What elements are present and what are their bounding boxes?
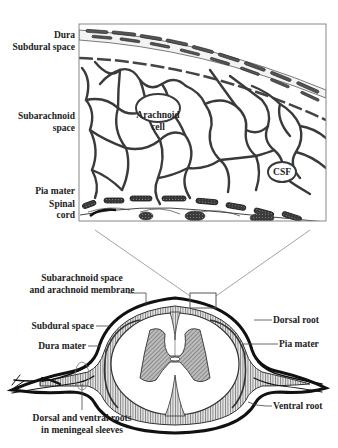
label-arachnoid-cell-line2: cell xyxy=(128,122,188,133)
label-spinal-cord-line2: cord xyxy=(0,210,75,221)
dura-layer xyxy=(79,29,326,101)
label-subdural-space-section: Subdural space xyxy=(0,321,94,332)
cross-section xyxy=(12,293,326,433)
label-subarachnoid-space-line2: space xyxy=(0,123,75,134)
label-spinal-cord-line1: Spinal xyxy=(0,199,75,210)
label-subdural-space: Subdural space xyxy=(0,42,75,53)
label-arachnoid-cell-line1: Arachnoid xyxy=(128,110,188,121)
label-pia-mater: Pia mater xyxy=(0,186,75,197)
label-dorsal-root: Dorsal root xyxy=(273,315,319,326)
label-subarachnoid-space-line1: Subarachnoid xyxy=(0,111,75,122)
label-meningeal-sleeves-line2: in meningeal sleeves xyxy=(22,425,142,436)
label-ventral-root: Ventral root xyxy=(273,401,322,412)
label-dura: Dura xyxy=(0,30,75,41)
label-subarachnoid-membrane-line1: Subarachnoid space xyxy=(22,273,142,284)
label-pia-mater-section: Pia mater xyxy=(279,339,319,350)
meninges-illustration xyxy=(0,0,338,448)
label-csf: CSF xyxy=(268,167,296,178)
detail-panel xyxy=(79,24,326,223)
label-subarachnoid-membrane-line2: and arachnoid membrane xyxy=(22,285,142,296)
label-dura-mater: Dura mater xyxy=(0,341,86,352)
label-meningeal-sleeves-line1: Dorsal and ventral roots xyxy=(22,413,142,424)
